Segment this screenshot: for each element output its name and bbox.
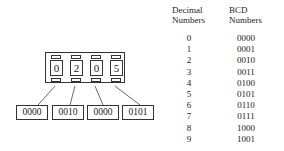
decimal-value: 7	[181, 111, 197, 122]
bcd-group-box: 0101	[122, 105, 154, 120]
header-line: Decimal	[172, 5, 205, 15]
segment-bottom	[51, 78, 61, 82]
digit-display: 0 2 0 5	[45, 52, 125, 83]
bcd-value: 0110	[233, 100, 259, 111]
bcd-group-box: 0010	[52, 105, 84, 120]
bcd-header: BCD Numbers	[229, 5, 262, 25]
bcd-value: 0001	[233, 44, 259, 55]
decimal-value: 4	[181, 78, 197, 89]
segment-top	[111, 55, 121, 59]
bcd-value: 0101	[233, 89, 259, 100]
bcd-group-box: 0000	[87, 105, 119, 120]
header-line: Numbers	[172, 15, 205, 25]
decimal-value: 6	[181, 100, 197, 111]
decimal-value: 0	[181, 33, 197, 44]
segment-top	[51, 55, 61, 59]
bcd-value: 0000	[233, 33, 259, 44]
bcd-value: 0100	[233, 78, 259, 89]
decimal-value: 9	[181, 134, 197, 145]
bcd-group-box: 0000	[16, 105, 48, 120]
decimal-value: 1	[181, 44, 197, 55]
decimal-value: 3	[181, 67, 197, 78]
decimal-value: 8	[181, 123, 197, 134]
header-line: Numbers	[229, 15, 262, 25]
segment-top	[91, 55, 101, 59]
segment-bottom	[91, 78, 101, 82]
display-digit: 0	[90, 60, 103, 76]
decimal-value: 5	[181, 89, 197, 100]
bcd-value: 1001	[233, 134, 259, 145]
segment-bottom	[71, 78, 81, 82]
bcd-value: 0111	[233, 111, 259, 122]
decimal-value: 2	[181, 55, 197, 66]
bcd-column: 0000 0001 0010 0011 0100 0101 0110 0111 …	[233, 33, 259, 145]
decimal-header: Decimal Numbers	[172, 5, 205, 25]
segment-bottom	[111, 78, 121, 82]
bcd-value: 0011	[233, 67, 259, 78]
bcd-value: 1000	[233, 123, 259, 134]
display-digit: 2	[70, 60, 83, 76]
display-digit: 5	[110, 60, 123, 76]
header-line: BCD	[229, 5, 262, 15]
segment-top	[71, 55, 81, 59]
display-digit: 0	[50, 60, 63, 76]
decimal-column: 0 1 2 3 4 5 6 7 8 9	[181, 33, 197, 145]
bcd-value: 0010	[233, 55, 259, 66]
